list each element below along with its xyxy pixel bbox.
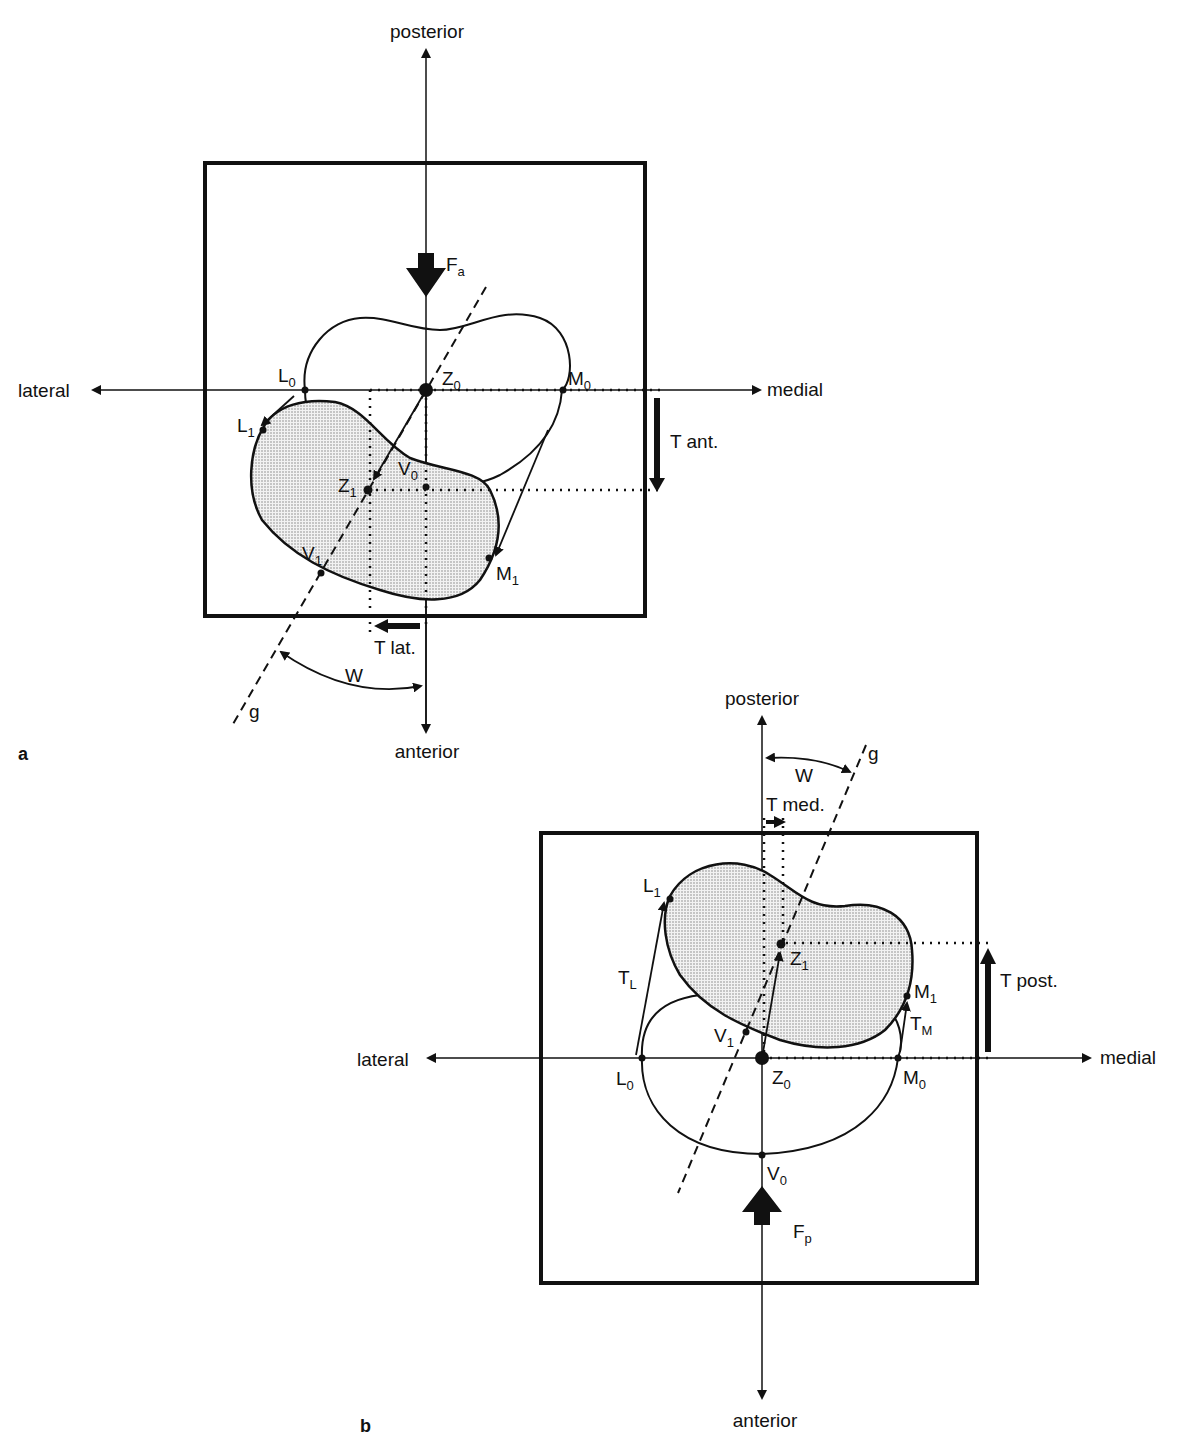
label-t-med: T med.	[766, 794, 825, 815]
label-tl-b: TL	[618, 967, 637, 992]
label-v1-b: V1	[714, 1025, 734, 1050]
label-t-lat: T lat.	[374, 637, 416, 658]
t-lat-arrowhead	[374, 619, 388, 633]
panel-a: posterior anterior lateral medial Fa L0 …	[18, 21, 823, 764]
label-l0-a: L0	[278, 365, 296, 390]
shape-displaced-a	[251, 401, 499, 599]
label-lateral-a: lateral	[18, 380, 70, 401]
label-t-ant: T ant.	[670, 431, 718, 452]
shape-displaced-b	[665, 863, 913, 1047]
label-anterior-a: anterior	[395, 741, 460, 762]
label-m0-b: M0	[903, 1067, 926, 1092]
label-medial-b: medial	[1100, 1047, 1156, 1068]
label-l0-b: L0	[616, 1068, 634, 1093]
label-line-g-a: g	[249, 701, 260, 722]
label-t-post: T post.	[1000, 970, 1058, 991]
label-v0-b: V0	[767, 1163, 787, 1188]
label-line-g-b: g	[868, 743, 879, 764]
label-z0-b: Z0	[772, 1067, 791, 1092]
force-arrow-a	[406, 253, 446, 297]
label-medial-a: medial	[767, 379, 823, 400]
force-arrow-b	[742, 1186, 782, 1225]
panel-b: posterior anterior lateral medial Fp L0 …	[357, 688, 1156, 1436]
label-force-a: Fa	[446, 254, 466, 279]
label-anterior-b: anterior	[733, 1410, 798, 1431]
vector-m-a	[496, 430, 548, 555]
t-post-arrowhead	[980, 948, 996, 964]
label-posterior-a: posterior	[390, 21, 465, 42]
label-force-b: Fp	[793, 1221, 812, 1246]
vector-tl-b	[636, 903, 664, 1055]
label-posterior-b: posterior	[725, 688, 800, 709]
label-m1-b: M1	[914, 981, 937, 1006]
label-l1-b: L1	[643, 875, 661, 900]
biomechanics-diagram: posterior anterior lateral medial Fa L0 …	[0, 0, 1181, 1440]
panel-label-b: b	[360, 1416, 371, 1436]
label-l1-a: L1	[237, 415, 255, 440]
label-lateral-b: lateral	[357, 1049, 409, 1070]
t-ant-arrowhead	[649, 478, 665, 492]
label-angle-w-b: W	[795, 765, 813, 786]
panel-label-a: a	[18, 744, 29, 764]
label-tm-b: TM	[910, 1013, 932, 1038]
label-m1-a: M1	[496, 563, 519, 588]
label-angle-w-a: W	[345, 665, 363, 686]
